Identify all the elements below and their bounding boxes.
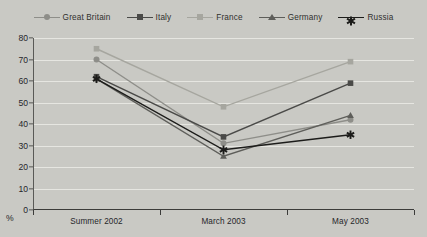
chart-figure: Great BritainItalyFranceGermanyRussia 01… (0, 0, 427, 237)
y-axis-tick-mark (29, 80, 33, 81)
circle-marker (94, 57, 100, 63)
square-marker (221, 104, 227, 110)
x-axis-tick-label: March 2003 (201, 217, 245, 226)
series-layer (0, 0, 427, 237)
x-axis-tick-label: May 2003 (332, 217, 369, 226)
x-axis-tick-mark (414, 210, 415, 215)
x-axis-tick-mark (287, 210, 288, 215)
y-axis-tick-mark (29, 123, 33, 124)
y-axis-tick-mark (29, 102, 33, 103)
square-marker (348, 80, 354, 86)
y-axis-tick-mark (29, 188, 33, 189)
x-axis-tick-label: Summer 2002 (70, 217, 123, 226)
y-axis-tick-mark (29, 166, 33, 167)
x-axis-tick-mark (33, 210, 34, 215)
y-axis-tick-mark (29, 59, 33, 60)
series-line-france (97, 49, 351, 107)
circle-marker (221, 140, 227, 146)
square-marker (94, 46, 100, 52)
x-axis-tick-mark (160, 210, 161, 215)
square-marker (221, 134, 227, 140)
y-axis-tick-mark (29, 145, 33, 146)
square-marker (348, 59, 354, 65)
triangle-marker (347, 112, 354, 118)
y-axis-tick-mark (29, 37, 33, 38)
